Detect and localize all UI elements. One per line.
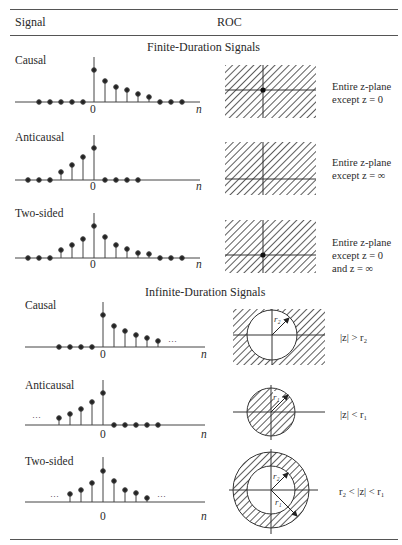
stem-plot-infinite-causal [25, 302, 205, 349]
radius-label-r2: r₂ [273, 471, 280, 481]
stem-plot-infinite-twosided [25, 457, 205, 502]
stem-plot-infinite-anticausal [25, 380, 205, 427]
stem-plot-finite-causal [15, 57, 200, 104]
roc-plane-except-origin [225, 65, 316, 118]
stem-plot-finite-twosided [15, 213, 200, 260]
stem-plot-finite-anticausal [15, 135, 200, 182]
diagram-graphics: r₂ r₁ r₂ r₁ [0, 0, 402, 545]
roc-exterior-of-circle: r₂ [233, 309, 325, 365]
radius-label-r1: r₁ [275, 497, 282, 507]
roc-plane-except-origin-infinity [225, 220, 316, 273]
radius-label-r1: r₁ [273, 392, 280, 402]
roc-annulus: r₂ r₁ [229, 449, 318, 534]
roc-plane-except-infinity [225, 142, 316, 195]
roc-interior-of-circle: r₁ [233, 385, 325, 440]
radius-label-r2: r₂ [274, 314, 281, 324]
